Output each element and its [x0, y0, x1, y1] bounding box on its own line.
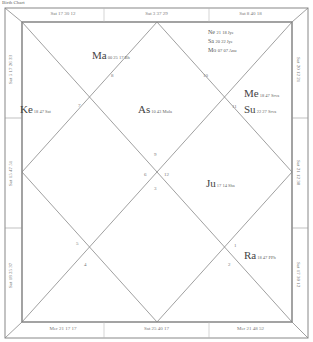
strip-right-2: Sat 21 12 38	[296, 122, 301, 224]
strip-bottom-1: Mer 21 17 17	[22, 326, 104, 331]
sign-house-2: 8	[111, 73, 114, 78]
sign-house-9: 1	[234, 243, 237, 248]
strip-top-1: Sat 17 30 12	[22, 11, 104, 16]
sign-house-5: 5	[76, 241, 79, 246]
sign-house-1: 9	[154, 152, 157, 157]
sign-house-4: 6	[144, 172, 147, 177]
planet-rahu: Ra18 47 PPh	[244, 246, 276, 262]
strip-left-2: Sat 15 47 51	[8, 122, 13, 224]
strip-left-1: Sat 5 17 26 33	[8, 26, 13, 114]
sign-house-8: 2	[228, 262, 231, 267]
planet-sun: Su22 27 Srva	[244, 100, 276, 116]
strip-left-3: Sat 18 25 37	[8, 232, 13, 318]
sign-house-3: 7	[78, 103, 81, 108]
planet-mercury: Me18 47 Srva	[244, 84, 279, 100]
planet-moon: Mo 07 07 Anu	[208, 47, 237, 54]
sign-house-7: 3	[154, 186, 157, 191]
sign-house-11: 11	[232, 104, 237, 109]
planet-saturn: Sa 20 22 Jye	[208, 38, 233, 45]
strip-bottom-3: Mer 21 48 52	[209, 326, 292, 331]
strip-top-3: Sat 8 40 18	[209, 11, 292, 16]
strip-top-2: Sat 3 37 29	[104, 11, 209, 16]
strip-bottom-2: Sat 25 40 17	[104, 326, 209, 331]
chart-frame	[0, 0, 313, 342]
sign-house-6: 4	[84, 262, 87, 267]
strip-right-1: Sat 20 12 21	[296, 26, 301, 114]
planet-mars: Ma00 25 17 Bh	[92, 46, 130, 62]
planet-neptune: Ne 21 18 Jye	[208, 29, 234, 36]
sign-house-12: 10	[203, 73, 208, 78]
ascendant: As10 43 Mula	[138, 100, 172, 116]
planet-ketu: Ke18 47 Sat	[20, 100, 51, 116]
sign-house-10: 12	[164, 172, 169, 177]
planet-jupiter: Ju17 14 Sha	[206, 174, 235, 190]
strip-right-3: Sat 17 30 12	[296, 232, 301, 318]
